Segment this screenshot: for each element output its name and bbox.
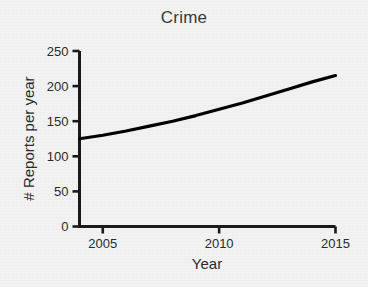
y-tick-label: 200 — [47, 79, 69, 94]
y-tick-label: 250 — [47, 44, 69, 59]
x-tick-label: 2005 — [88, 236, 117, 251]
y-tick-labels: 050100150200250 — [47, 44, 69, 235]
y-tick-label: 0 — [61, 219, 68, 234]
y-tick-label: 50 — [54, 184, 68, 199]
y-tick-label: 100 — [47, 149, 69, 164]
plot-area: 050100150200250 200520102015 — [0, 0, 368, 287]
x-tick-label: 2015 — [321, 236, 350, 251]
data-series-line — [80, 76, 336, 139]
y-tick-label: 150 — [47, 114, 69, 129]
x-tick-label: 2010 — [205, 236, 234, 251]
chart-figure: Crime # Reports per year Year 0501001502… — [0, 0, 368, 287]
x-tick-labels: 200520102015 — [88, 236, 350, 251]
